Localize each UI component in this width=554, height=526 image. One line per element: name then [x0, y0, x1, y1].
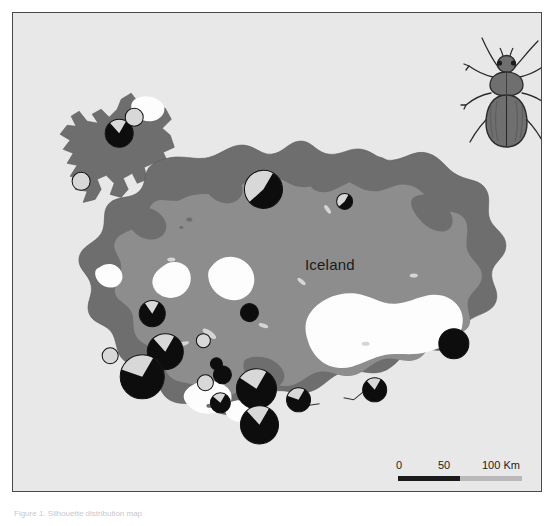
pie-marker[interactable]: [125, 108, 143, 126]
figure-container: Iceland 0 50 100 Km: [0, 0, 554, 526]
scale-segment-0-50: [398, 476, 460, 481]
pie-marker[interactable]: [120, 355, 164, 399]
pie-marker[interactable]: [287, 388, 311, 412]
pie-marker[interactable]: [240, 304, 258, 322]
pie-marker[interactable]: [196, 334, 210, 348]
scale-tick-0: 0: [396, 459, 402, 471]
pie-marker[interactable]: [102, 348, 118, 364]
pie-marker[interactable]: [439, 329, 469, 359]
scale-bar-track: [398, 476, 522, 481]
pie-marker[interactable]: [139, 301, 165, 327]
map-frame: Iceland 0 50 100 Km: [12, 12, 542, 492]
scale-segment-50-100: [460, 476, 522, 481]
pie-marker[interactable]: [363, 378, 387, 402]
beetle-eye-right: [511, 60, 516, 65]
ground-beetle-icon: [460, 35, 542, 151]
pie-marker[interactable]: [210, 358, 222, 370]
scale-tick-100: 100 Km: [482, 459, 520, 471]
pie-marker[interactable]: [240, 406, 278, 444]
scale-tick-50: 50: [438, 459, 450, 471]
pie-marker[interactable]: [337, 193, 353, 209]
figure-caption: Figure 1. Silhouette distribution map: [14, 509, 542, 525]
pie-marker[interactable]: [210, 393, 230, 413]
pie-marker[interactable]: [72, 172, 90, 190]
scale-bar: 0 50 100 Km: [396, 459, 536, 489]
scale-bar-labels: 0 50 100 Km: [396, 459, 536, 473]
beetle-eye-left: [497, 60, 502, 65]
pie-marker[interactable]: [197, 375, 213, 391]
pie-marker[interactable]: [236, 369, 276, 409]
pie-marker[interactable]: [244, 170, 282, 208]
